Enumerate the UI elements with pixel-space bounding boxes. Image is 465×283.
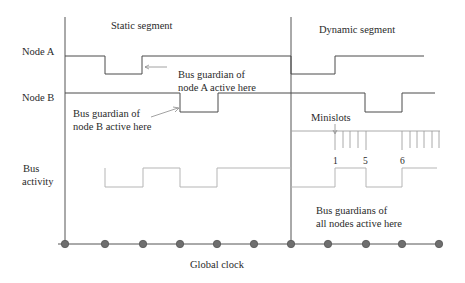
bus-activity-label-line2: activity — [22, 176, 54, 187]
global-clock-label: Global clock — [190, 259, 245, 270]
all-guardians-label-line2: all nodes active here — [316, 218, 402, 229]
flexray-timing-diagram: Static segment Dynamic segment Node A No… — [0, 0, 465, 283]
minislots-label: Minislots — [311, 112, 351, 123]
minislot-number-5: 5 — [363, 156, 368, 166]
dynamic-segment-label: Dynamic segment — [319, 24, 395, 35]
static-segment-label: Static segment — [111, 20, 173, 31]
minislot-number-1: 1 — [333, 156, 338, 166]
bus-activity-label-line1: Bus — [23, 163, 39, 174]
node-b-label: Node B — [22, 92, 54, 103]
node-a-label: Node A — [22, 46, 55, 57]
all-guardians-label-line1: Bus guardians of — [316, 205, 388, 216]
guardian-b-label-line1: Bus guardian of — [73, 108, 141, 119]
minislot-number-6: 6 — [400, 156, 405, 166]
bus-activity-signal-static — [105, 168, 291, 187]
guardian-b-arrow — [151, 108, 178, 117]
minislot-ticks — [335, 131, 439, 150]
guardian-a-label-line2: node A active here — [178, 82, 256, 93]
bus-activity-signal-dynamic — [291, 168, 437, 187]
guardian-a-label-line1: Bus guardian of — [178, 69, 246, 80]
guardian-b-label-line2: node B active here — [73, 121, 152, 132]
